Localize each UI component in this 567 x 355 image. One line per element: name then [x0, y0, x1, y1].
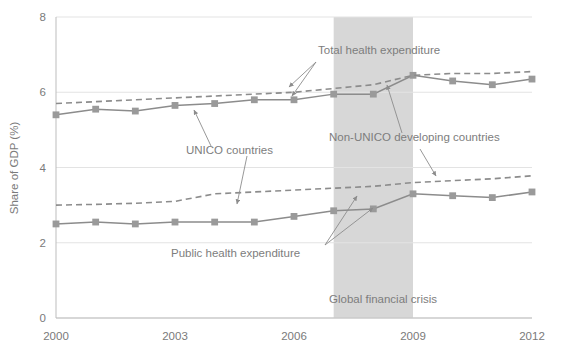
line-chart: 02468 20002003200620092012 Share of GDP …: [0, 0, 567, 355]
data-point-marker: [291, 96, 298, 103]
annotation-label: UNICO countries: [186, 144, 273, 156]
chart-container: 02468 20002003200620092012 Share of GDP …: [0, 0, 567, 355]
y-axis-title: Share of GDP (%): [8, 122, 20, 215]
data-point-marker: [172, 102, 179, 109]
data-point-marker: [251, 219, 258, 226]
data-point-marker: [211, 219, 218, 226]
data-point-marker: [449, 192, 456, 199]
x-tick-label: 2000: [43, 330, 69, 342]
data-point-marker: [449, 78, 456, 85]
data-point-marker: [53, 221, 60, 228]
annotation-label: Non-UNICO developing countries: [329, 131, 500, 143]
y-tick-label: 6: [40, 86, 46, 98]
y-axis-tick-labels: 02468: [40, 11, 47, 324]
data-point-marker: [172, 219, 179, 226]
data-point-marker: [330, 91, 337, 98]
x-tick-label: 2009: [400, 330, 426, 342]
annotation-label: Total health expenditure: [318, 44, 440, 56]
data-point-marker: [489, 81, 496, 88]
data-point-marker: [92, 106, 99, 113]
y-tick-label: 0: [40, 312, 46, 324]
y-tick-label: 2: [40, 237, 46, 249]
data-point-marker: [330, 207, 337, 214]
data-point-marker: [53, 111, 60, 118]
data-point-marker: [529, 189, 536, 196]
annotation-label: Public health expenditure: [171, 247, 300, 259]
x-tick-label: 2006: [281, 330, 307, 342]
data-point-marker: [211, 100, 218, 107]
data-point-marker: [370, 205, 377, 212]
data-point-marker: [370, 91, 377, 98]
data-point-marker: [489, 194, 496, 201]
x-axis-tick-labels: 20002003200620092012: [43, 330, 545, 342]
data-point-marker: [410, 190, 417, 197]
y-tick-label: 8: [40, 11, 46, 23]
y-tick-label: 4: [40, 162, 47, 174]
data-point-marker: [291, 213, 298, 220]
data-point-marker: [132, 108, 139, 115]
x-tick-label: 2012: [519, 330, 545, 342]
data-point-marker: [251, 96, 258, 103]
data-point-marker: [132, 221, 139, 228]
data-point-marker: [92, 219, 99, 226]
data-point-marker: [529, 76, 536, 83]
annotation-label: Global financial crisis: [329, 293, 437, 305]
x-tick-label: 2003: [162, 330, 188, 342]
